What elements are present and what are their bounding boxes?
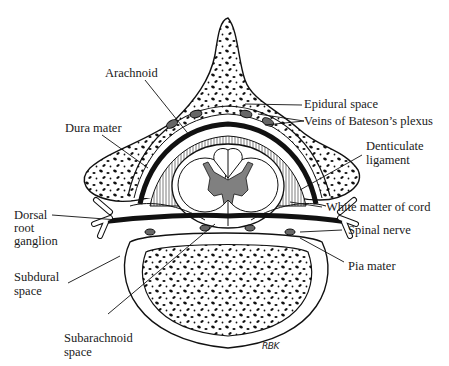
label-spinal-nerve: Spinal nerve [348, 224, 411, 237]
diagram-artwork [0, 0, 449, 366]
artist-signature: RBK [262, 341, 279, 351]
label-subdural-line2: space [14, 285, 42, 298]
label-arachnoid: Arachnoid [105, 67, 158, 80]
label-epidural-space: Epidural space [304, 98, 378, 111]
label-veins-batesons-plexus: Veins of Bateson’s plexus [304, 115, 433, 128]
label-pia-mater: Pia mater [348, 260, 396, 273]
label-dorsal-root-line3: ganglion [14, 235, 58, 248]
label-subdural-line1: Subdural [14, 271, 59, 284]
label-denticulate-line2: ligament [366, 154, 410, 167]
label-white-matter: White matter of cord [326, 201, 430, 214]
label-dura-mater: Dura mater [65, 122, 122, 135]
label-subarachnoid-line2: space [64, 346, 92, 359]
spinal-canal-diagram: Arachnoid Dura mater Epidural space Vein… [0, 0, 449, 366]
label-denticulate-line1: Denticulate [366, 140, 424, 153]
label-subarachnoid-line1: Subarachnoid [64, 332, 133, 345]
